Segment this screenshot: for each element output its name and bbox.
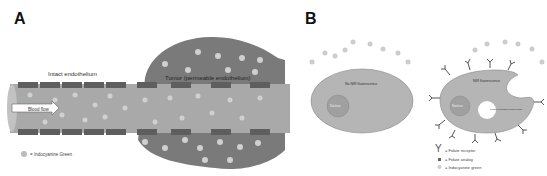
blood-flow-label: Blood flow [28,107,50,112]
panel-a-legend: = Indocyanine Green [30,152,72,157]
nucleus-right-label: Nucleus [452,104,463,108]
panel-a-diagram: Blood flow Intact endothelium Tumor (per… [0,0,290,176]
folate-analog-legend-icon [438,158,441,161]
vesicle-label: Folate-mediated endocytosis [490,108,523,111]
icg-legend-icon [21,151,27,157]
folate-receptor-legend-icon: Y [435,143,442,154]
icg-legend-icon-b [438,165,442,169]
intact-endothelium-label: Intact endothelium [48,71,97,77]
tumor-label: Tumor (permeable endothelium) [165,75,250,81]
legend-icg: = Indocyanine green [445,165,481,170]
cell-no-fluorescence [311,69,413,133]
nucleus-left-label: Nucleus [330,104,341,108]
no-nir-label: No NIR fluorescence [345,82,377,86]
free-folate-icg-conjugates [310,40,545,65]
legend-folate-analog: = Folate analog [445,157,473,162]
panel-b-diagram: Nucleus No NIR fluorescence Nucleus Fola… [290,0,547,176]
legend-folate-receptor: = Folate receptor [445,148,476,153]
nir-label: NIR fluorescence [473,79,500,83]
